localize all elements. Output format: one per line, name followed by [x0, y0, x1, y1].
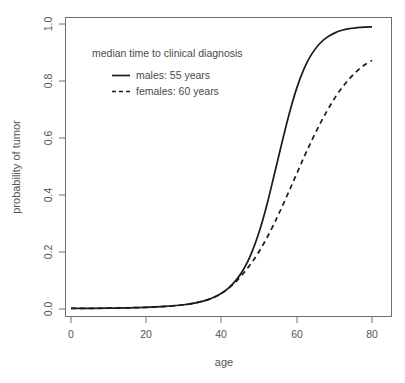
legend-label-males: males: 55 years: [136, 69, 210, 81]
x-tick-label: 0: [68, 328, 74, 340]
y-tick-label: 1.0: [42, 17, 54, 32]
series-line-males: [71, 27, 372, 309]
legend: median time to clinical diagnosis males:…: [92, 47, 243, 97]
y-tick-label: 0.2: [42, 245, 54, 260]
x-axis-tick-labels: 0 20 40 60 80: [68, 328, 378, 340]
plot-frame: [66, 18, 392, 317]
legend-title: median time to clinical diagnosis: [92, 47, 243, 59]
x-tick-label: 40: [215, 328, 227, 340]
x-tick-label: 60: [291, 328, 303, 340]
y-axis-title: probability of tumor: [10, 120, 22, 214]
y-tick-label: 0.6: [42, 131, 54, 146]
x-tick-label: 20: [140, 328, 152, 340]
y-axis-tick-labels: 0.0 0.2 0.4 0.6 0.8 1.0: [42, 17, 54, 317]
legend-label-females: females: 60 years: [136, 85, 219, 97]
y-tick-label: 0.8: [42, 74, 54, 89]
x-tick-label: 80: [366, 328, 378, 340]
x-axis-title: age: [215, 356, 233, 368]
chart-canvas: 0.0 0.2 0.4 0.6 0.8 1.0 probability of t…: [0, 0, 405, 383]
figure-container: 0.0 0.2 0.4 0.6 0.8 1.0 probability of t…: [0, 0, 405, 383]
y-tick-label: 0.4: [42, 188, 54, 203]
y-axis-ticks: [59, 24, 66, 309]
y-tick-label: 0.0: [42, 302, 54, 317]
x-axis-ticks: [71, 317, 372, 324]
series-line-females: [71, 60, 372, 308]
